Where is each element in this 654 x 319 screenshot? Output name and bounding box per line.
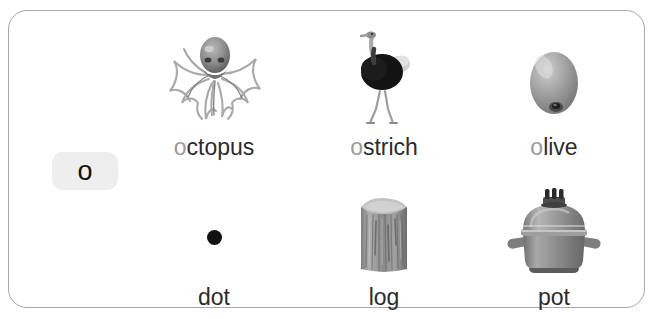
word-cell-pot[interactable]: pot: [469, 171, 639, 315]
phonics-card: o: [8, 10, 645, 308]
word-grid: octopus: [129, 27, 639, 315]
log-image: [329, 185, 439, 275]
word-rest: live: [543, 134, 578, 160]
word-label-octopus: octopus: [174, 135, 255, 159]
word-cell-log[interactable]: log: [299, 171, 469, 315]
word-label-dot: dot: [198, 285, 230, 309]
word-rest: pot: [538, 284, 570, 310]
word-label-pot: pot: [538, 285, 570, 309]
word-rest: ctopus: [187, 134, 255, 160]
word-label-ostrich: ostrich: [350, 135, 418, 159]
word-label-log: log: [369, 285, 400, 309]
word-cell-octopus[interactable]: octopus: [129, 27, 299, 171]
word-label-olive: olive: [530, 135, 577, 159]
word-cell-dot[interactable]: dot: [129, 171, 299, 315]
word-rest: log: [369, 284, 400, 310]
word-cell-ostrich[interactable]: ostrich: [299, 27, 469, 171]
dot-image: [159, 185, 269, 275]
ostrich-image: [329, 27, 439, 127]
word-rest: strich: [363, 134, 418, 160]
dot-shape: [207, 230, 222, 245]
letter-badge[interactable]: o: [52, 152, 118, 190]
word-prefix: o: [174, 134, 187, 160]
octopus-image: [159, 27, 269, 127]
word-rest: dot: [198, 284, 230, 310]
pot-image: [499, 185, 609, 275]
word-prefix: o: [530, 134, 543, 160]
word-cell-olive[interactable]: olive: [469, 27, 639, 171]
word-prefix: o: [350, 134, 363, 160]
letter-badge-label: o: [77, 158, 92, 185]
olive-image: [499, 27, 609, 127]
